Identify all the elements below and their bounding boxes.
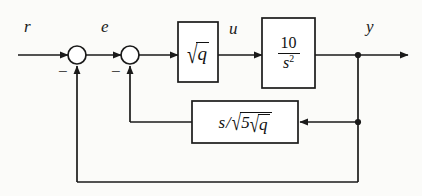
rate-outer-radical-glyph: √ bbox=[232, 111, 241, 134]
block-diagram: r e u y − − √ q 10 s2 s / √ 5√q bbox=[0, 0, 422, 196]
gain-radical-glyph: √ bbox=[187, 41, 197, 67]
plant-fraction: 10 s2 bbox=[278, 35, 300, 72]
rate-numerator: s bbox=[218, 114, 225, 131]
rate-inner-radical-glyph: √ bbox=[250, 113, 259, 136]
plant-block-label: 10 s2 bbox=[262, 18, 315, 88]
output-node-dot bbox=[355, 52, 361, 58]
error-signal-label: e bbox=[101, 18, 109, 35]
plant-denominator: s2 bbox=[280, 54, 297, 72]
rate-outer-radical: √ 5√q bbox=[232, 112, 272, 133]
reference-signal-label: r bbox=[24, 18, 31, 35]
control-signal-label: u bbox=[229, 20, 238, 37]
rate-inner-radical: √q bbox=[250, 114, 270, 133]
rate-outer-coefficient: 5 bbox=[241, 113, 250, 132]
gain-radical: √ q bbox=[187, 42, 209, 63]
rate-feedback-block-label: s / √ 5√q bbox=[192, 101, 298, 143]
inner-feedback-tap-dot bbox=[355, 119, 361, 125]
rate-divider: / bbox=[225, 114, 232, 131]
output-signal-label: y bbox=[366, 18, 374, 35]
outer-summing-junction bbox=[68, 46, 86, 64]
gain-block-label: √ q bbox=[178, 22, 218, 82]
inner-sum-minus-sign: − bbox=[111, 63, 121, 80]
plant-denominator-exponent: 2 bbox=[289, 52, 294, 63]
gain-radicand: q bbox=[196, 42, 209, 63]
outer-sum-minus-sign: − bbox=[58, 63, 68, 80]
rate-inner-radicand: q bbox=[258, 114, 270, 133]
plant-numerator: 10 bbox=[278, 35, 300, 53]
inner-summing-junction bbox=[121, 46, 139, 64]
rate-outer-radicand: 5√q bbox=[240, 112, 271, 133]
